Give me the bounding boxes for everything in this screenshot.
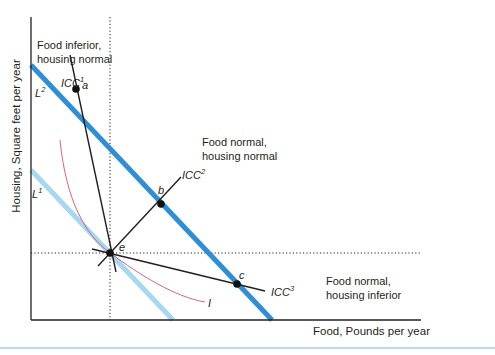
region-label-top-left: Food inferior, housing normal: [37, 38, 112, 66]
region-label-line: housing inferior: [326, 288, 401, 302]
point-e: [106, 249, 114, 257]
point-b-label: b: [158, 183, 164, 197]
region-label-bottom-right: Food normal, housing inferior: [326, 274, 401, 302]
x-axis-title: Food, Pounds per year: [313, 324, 430, 338]
region-label-line: Food normal,: [326, 274, 401, 288]
point-c-label: c: [239, 268, 245, 282]
point-b: [157, 200, 165, 208]
icc2-label: ICC2: [182, 168, 205, 182]
y-axis-title: Housing, Square feet per year: [10, 46, 22, 226]
point-e-label: e: [119, 240, 125, 254]
indifference-curve-label: I: [208, 296, 211, 310]
icc3-label: ICC3: [271, 285, 294, 299]
region-label-line: Food inferior,: [37, 38, 112, 52]
region-label-line: Food normal,: [202, 135, 277, 149]
budget-line-l1-label: L1: [32, 187, 42, 201]
region-label-line: housing normal: [202, 149, 277, 163]
region-label-line: housing normal: [37, 52, 112, 66]
budget-line-l2-label: L2: [35, 86, 45, 100]
icc1-label: ICC1: [61, 76, 84, 90]
region-label-top-right: Food normal, housing normal: [202, 135, 277, 163]
point-a-label: a: [82, 78, 88, 92]
